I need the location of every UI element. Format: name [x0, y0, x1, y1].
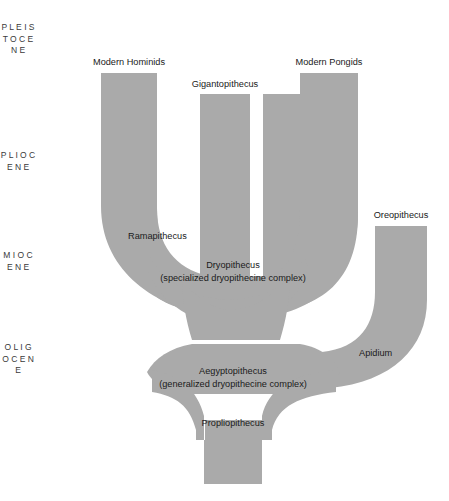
- taxon-label-propliopithecus: Propliopithecus: [202, 418, 265, 430]
- taxon-label-gigantopithecus: Gigantopithecus: [192, 79, 258, 91]
- taxon-text-ramapithecus: Ramapithecus: [128, 231, 187, 241]
- epoch-oligocene: O L I G O C E N E: [0, 342, 36, 377]
- taxon-label-ramapithecus: Ramapithecus: [128, 231, 187, 243]
- taxon-text-oreopithecus: Oreopithecus: [374, 210, 429, 220]
- trunk-base: [205, 420, 262, 484]
- taxon-label-modern-pongids: Modern Pongids: [296, 57, 363, 69]
- epoch-pliocene-label: P L I O C E N E: [0, 150, 36, 173]
- epoch-pleistocene-label: P L E I S T O C E N E: [0, 22, 36, 57]
- epoch-pleistocene: P L E I S T O C E N E: [0, 22, 36, 57]
- epoch-oligocene-label: O L I G O C E N E: [0, 342, 36, 377]
- taxon-text-propliopithecus: Propliopithecus: [202, 418, 265, 428]
- taxon-label-apidium: Apidium: [359, 348, 392, 360]
- taxon-label-oreopithecus: Oreopithecus: [374, 210, 429, 222]
- taxon-text-modern-pongids: Modern Pongids: [296, 57, 363, 67]
- taxon-subtext-aegyptopithecus: (generalized dryopithecine complex): [159, 378, 307, 391]
- epoch-axis: P L E I S T O C E N E P L I O C E N E M …: [0, 0, 36, 501]
- taxon-label-dryopithecus: Dryopithecus (specialized dryopithecine …: [160, 259, 306, 284]
- taxon-subtext-dryopithecus: (specialized dryopithecine complex): [160, 272, 306, 285]
- taxon-text-modern-hominids: Modern Hominids: [93, 57, 165, 67]
- taxon-label-aegyptopithecus: Aegyptopithecus (generalized dryopitheci…: [159, 365, 307, 390]
- phylogenetic-tree-figure: P L E I S T O C E N E P L I O C E N E M …: [0, 0, 449, 501]
- taxon-text-gigantopithecus: Gigantopithecus: [192, 79, 258, 89]
- epoch-pliocene: P L I O C E N E: [0, 150, 36, 173]
- epoch-miocene-label: M I O C E N E: [0, 250, 36, 273]
- taxon-label-modern-hominids: Modern Hominids: [93, 57, 165, 69]
- taxon-text-dryopithecus: Dryopithecus: [160, 259, 306, 272]
- taxon-text-apidium: Apidium: [359, 348, 392, 358]
- taxon-text-aegyptopithecus: Aegyptopithecus: [159, 365, 307, 378]
- epoch-miocene: M I O C E N E: [0, 250, 36, 273]
